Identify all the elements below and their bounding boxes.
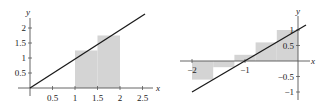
x-tick-label: 0.5	[47, 93, 59, 103]
x-axis-label: x	[310, 56, 315, 66]
left-chart: 0.5 1 1.5 2 2.5 0.5 1 1.5 2 x y	[15, 7, 160, 103]
y-tick-label: 0.5	[15, 68, 27, 78]
y-tick-label: −0.5	[278, 72, 295, 82]
x-tick-label: 2	[118, 93, 123, 103]
y-axis-label: y	[25, 7, 30, 17]
y-tick-label: 1.5	[15, 38, 27, 48]
y-tick-label: 1	[22, 53, 27, 63]
x-tick-label: 2.5	[137, 93, 149, 103]
figure: 0.5 1 1.5 2 2.5 0.5 1 1.5 2 x y −2	[0, 0, 325, 110]
x-tick-label: 1.5	[92, 93, 104, 103]
riemann-rect-4	[256, 42, 277, 61]
y-tick-label: 0.5	[283, 41, 295, 51]
x-tick-label: −2	[187, 65, 197, 75]
riemann-rect-2	[213, 61, 234, 67]
riemann-rect-2	[98, 36, 121, 89]
y-tick-label: −1	[284, 87, 294, 97]
x-tick-label: −1	[240, 65, 250, 75]
x-tick-label: 1	[73, 93, 78, 103]
y-tick-label: 2	[22, 23, 27, 33]
y-axis-label: y	[295, 6, 300, 16]
x-axis-label: x	[155, 83, 160, 93]
right-chart: −2 −1 1 0.5 −0.5 −1 x y	[180, 6, 315, 100]
